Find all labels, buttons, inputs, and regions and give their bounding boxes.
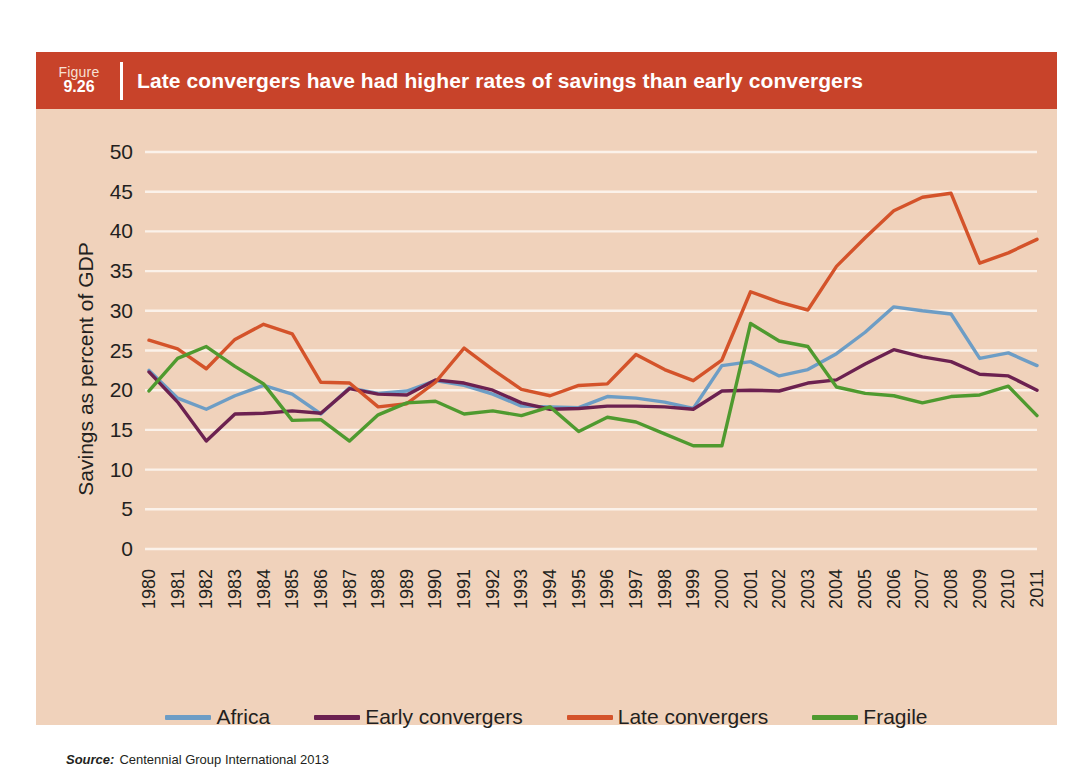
x-tick-label: 2009: [970, 569, 990, 609]
source-label: Source:: [66, 752, 114, 767]
x-tick-label: 2007: [912, 569, 932, 609]
x-tick-label: 2004: [826, 569, 846, 609]
figure-card: Figure 9.26 Late convergers have had hig…: [36, 52, 1057, 725]
x-tick-label: 1983: [225, 569, 245, 609]
legend-label-late-convergers: Late convergers: [618, 705, 769, 729]
x-tick-label: 2011: [1027, 569, 1047, 608]
x-tick-label: 1999: [683, 569, 703, 609]
source-text: Centennial Group International 2013: [119, 752, 329, 767]
x-tick-label: 1994: [540, 569, 560, 609]
legend-swatch-fragile: [812, 715, 858, 720]
plot-region: Savings as percent of GDP 05101520253035…: [36, 109, 1057, 725]
x-tick-label: 2000: [712, 569, 732, 609]
y-tick-label: 25: [110, 339, 133, 362]
header-divider: [120, 62, 123, 100]
x-tick-label: 1980: [139, 569, 159, 609]
legend-swatch-early-convergers: [314, 715, 360, 720]
y-tick-label: 10: [110, 458, 133, 481]
x-tick-label: 2002: [769, 569, 789, 609]
legend-item[interactable]: Late convergers: [567, 705, 769, 729]
figure-number-word: Figure: [59, 65, 100, 80]
x-tick-label: 1992: [483, 569, 503, 609]
figure-header: Figure 9.26 Late convergers have had hig…: [36, 52, 1057, 109]
x-tick-label: 1993: [511, 569, 531, 609]
x-tick-label: 1982: [196, 569, 216, 609]
x-tick-label: 1989: [397, 569, 417, 609]
x-tick-label: 1981: [168, 569, 188, 609]
x-tick-label: 1988: [368, 569, 388, 609]
x-tick-label: 2001: [741, 569, 761, 609]
x-tick-label: 1995: [569, 569, 589, 609]
legend-item[interactable]: Fragile: [812, 705, 927, 729]
legend-label-fragile: Fragile: [863, 705, 927, 729]
y-tick-label: 35: [110, 259, 133, 282]
figure-title: Late convergers have had higher rates of…: [137, 69, 863, 93]
y-tick-label: 20: [110, 378, 133, 401]
x-tick-label: 1985: [282, 569, 302, 609]
x-tick-label: 1986: [311, 569, 331, 609]
x-tick-label: 1991: [454, 569, 474, 609]
legend-swatch-africa: [165, 715, 211, 720]
y-tick-label: 15: [110, 418, 133, 441]
y-tick-label: 30: [110, 299, 133, 322]
x-tick-label: 2008: [941, 569, 961, 609]
x-tick-label: 2005: [855, 569, 875, 609]
figure-number-value: 9.26: [63, 79, 94, 96]
x-tick-label: 1997: [626, 569, 646, 609]
y-tick-label: 45: [110, 180, 133, 203]
line-chart: 0510152025303540455019801981198219831984…: [36, 109, 1057, 669]
chart-legend: Africa Early convergers Late convergers …: [36, 705, 1057, 729]
x-tick-label: 2010: [998, 569, 1018, 609]
x-tick-label: 1984: [254, 569, 274, 609]
series-line-early-convergers: [149, 350, 1037, 441]
x-tick-label: 1996: [597, 569, 617, 609]
legend-item[interactable]: Early convergers: [314, 705, 523, 729]
source-line: Source:Centennial Group International 20…: [66, 752, 329, 767]
y-tick-label: 0: [121, 537, 133, 560]
figure-number-block: Figure 9.26: [40, 65, 118, 96]
legend-label-africa: Africa: [216, 705, 270, 729]
x-tick-label: 2003: [798, 569, 818, 609]
y-tick-label: 40: [110, 219, 133, 242]
x-tick-label: 1990: [425, 569, 445, 609]
legend-item[interactable]: Africa: [165, 705, 270, 729]
legend-label-early-convergers: Early convergers: [365, 705, 523, 729]
series-line-late-convergers: [149, 193, 1037, 407]
y-tick-label: 50: [110, 140, 133, 163]
x-tick-label: 1987: [340, 569, 360, 609]
x-tick-label: 2006: [884, 569, 904, 609]
y-tick-label: 5: [121, 497, 133, 520]
legend-swatch-late-convergers: [567, 715, 613, 720]
x-tick-label: 1998: [655, 569, 675, 609]
